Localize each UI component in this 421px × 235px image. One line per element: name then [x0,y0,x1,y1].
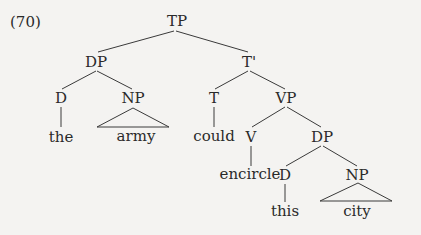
node-dp-subject: DP [85,55,107,70]
node-np-object: NP [345,168,368,183]
tree-branches [0,0,421,235]
node-t-bar: T' [242,55,256,70]
node-vp: VP [276,91,297,106]
node-np-subject: NP [121,91,144,106]
word-could: could [193,129,235,144]
example-number: (70) [10,13,41,31]
word-the: the [49,130,74,145]
node-tp: TP [167,14,187,29]
word-encircle: encircle [220,167,281,182]
node-d-object: D [279,168,291,183]
node-d-subject: D [55,91,67,106]
word-city: city [343,204,371,219]
word-army: army [117,129,156,144]
node-dp-object: DP [311,130,333,145]
word-this: this [271,204,299,219]
node-t: T [209,91,219,106]
node-v: V [246,130,257,145]
